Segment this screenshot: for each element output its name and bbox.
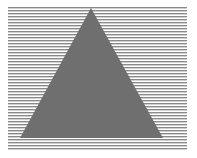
grating-line bbox=[8, 139, 187, 140]
illusion-figure bbox=[0, 0, 197, 158]
grating-line bbox=[8, 148, 187, 149]
grating-line bbox=[8, 16, 187, 17]
grating-line bbox=[8, 7, 187, 8]
grating-line bbox=[8, 142, 187, 143]
figure-canvas bbox=[0, 0, 197, 158]
grating-line bbox=[8, 13, 187, 14]
grating-line bbox=[8, 10, 187, 11]
grating-line bbox=[8, 145, 187, 146]
